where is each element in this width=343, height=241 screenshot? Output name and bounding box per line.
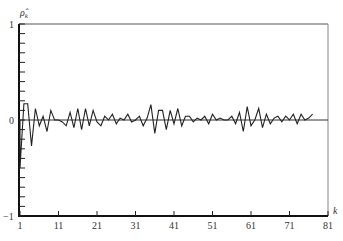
x-tick-label: 41 — [169, 220, 179, 231]
x-tick-label: 71 — [285, 220, 295, 231]
y-tick-label: 1 — [9, 19, 14, 30]
x-tick-label: 1 — [18, 220, 23, 231]
y-axis-ticks: 10−1 — [3, 19, 25, 222]
x-tick-label: 51 — [208, 220, 218, 231]
acf-series-line — [20, 104, 313, 168]
x-axis-label: k — [333, 205, 338, 216]
x-tick-label: 31 — [131, 220, 141, 231]
x-tick-label: 11 — [54, 220, 64, 231]
y-tick-label: −1 — [3, 211, 14, 222]
y-tick-label: 0 — [9, 115, 14, 126]
x-tick-label: 81 — [323, 220, 333, 231]
y-axis-label: ρ̂k — [19, 7, 29, 20]
x-tick-label: 21 — [92, 220, 102, 231]
x-tick-label: 61 — [246, 220, 256, 231]
autocorrelation-chart: 10−1 11121314151617181 ρ̂k k — [0, 0, 343, 241]
x-axis-ticks: 11121314151617181 — [18, 211, 334, 231]
